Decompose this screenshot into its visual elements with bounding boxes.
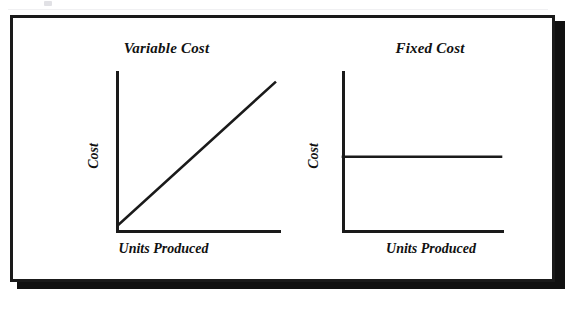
series-fixed-cost [298,18,552,279]
variable-cost-line [118,83,275,226]
figure-screenshot: Variable Cost Cost Units Produced Fixed … [0,0,580,310]
series-variable-cost [13,18,298,279]
chart-panel-variable-cost: Variable Cost Cost Units Produced [13,18,298,279]
x-axis-label-fixed-cost: Units Produced [298,241,552,257]
figure-frame: Variable Cost Cost Units Produced Fixed … [10,15,555,282]
scan-artifact-smudge [44,1,52,6]
y-axis-label-fixed-cost: Cost [306,143,322,169]
x-axis-label-variable-cost: Units Produced [13,241,298,257]
y-axis-label-variable-cost: Cost [86,143,102,169]
chart-panel-fixed-cost: Fixed Cost Cost Units Produced [298,18,552,279]
scan-artifact-line [8,9,548,10]
